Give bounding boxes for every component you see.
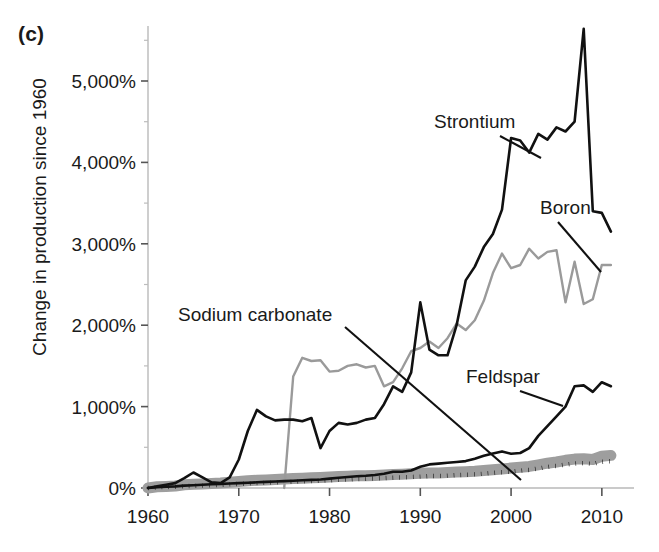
y-tick-label: 5,000%	[72, 71, 137, 92]
leader-line-boron	[558, 222, 601, 272]
series-label-feldspar: Feldspar	[466, 366, 541, 387]
axis-layer: 0%1,000%2,000%3,000%4,000%5,000%19601970…	[72, 26, 634, 527]
leader-line-sodium-carbonate	[345, 327, 521, 480]
series-label-sodium-carbonate: Sodium carbonate	[178, 304, 332, 325]
y-tick-label: 4,000%	[72, 152, 137, 173]
series-line-boron	[284, 249, 611, 488]
series-layer	[148, 29, 611, 488]
y-tick-label: 1,000%	[72, 397, 137, 418]
y-tick-label: 2,000%	[72, 315, 137, 336]
y-tick-label: 0%	[109, 478, 137, 499]
x-tick-label: 1980	[308, 506, 350, 527]
chart-plot-area: 0%1,000%2,000%3,000%4,000%5,000%19601970…	[0, 0, 659, 552]
series-line-strontium	[148, 29, 611, 488]
x-tick-label: 2000	[490, 506, 532, 527]
y-tick-label: 3,000%	[72, 234, 137, 255]
x-tick-label: 1960	[127, 506, 169, 527]
leader-line-feldspar	[520, 391, 563, 406]
annotation-layer: StrontiumBoronSodium carbonateFeldspar	[178, 111, 601, 480]
x-tick-label: 2010	[581, 506, 623, 527]
series-label-boron: Boron	[540, 197, 591, 218]
series-label-strontium: Strontium	[434, 111, 515, 132]
x-tick-label: 1990	[399, 506, 441, 527]
figure-panel-c: (c) Change in production since 1960 0%1,…	[0, 0, 659, 552]
x-tick-label: 1970	[218, 506, 260, 527]
